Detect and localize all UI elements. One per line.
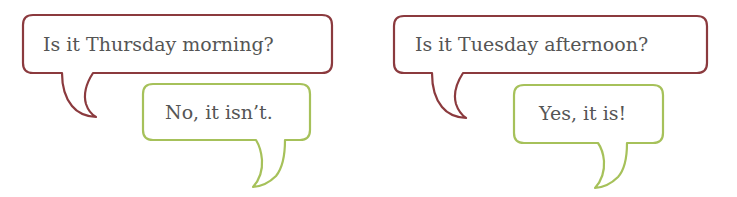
answer-text-1: No, it isn’t. xyxy=(165,103,273,122)
speech-bubbles xyxy=(0,0,737,197)
answer-bubble-1 xyxy=(143,84,310,187)
answer-bubble-2 xyxy=(514,85,663,188)
question-text-2: Is it Tuesday afternoon? xyxy=(415,35,648,54)
question-text-1: Is it Thursday morning? xyxy=(43,35,274,54)
answer-text-2: Yes, it is! xyxy=(539,104,626,123)
